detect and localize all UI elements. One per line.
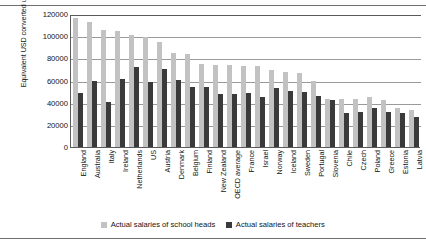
bar-teachers [232,94,237,147]
bar-teachers [120,79,125,147]
bar-group [183,14,197,147]
bar-group [393,14,407,147]
bar-teachers [288,91,293,147]
bar-group [253,14,267,147]
bar-teachers [302,92,307,147]
bar-teachers [246,93,251,147]
bars-group [71,14,421,147]
bar-group [85,14,99,147]
x-axis-tick-label: Latvia [416,150,423,169]
x-axis-label-cell: Belgium [182,150,196,212]
x-axis-label-cell: Estonia [392,150,406,212]
bar-group [295,14,309,147]
bar-teachers [92,81,97,148]
bar-teachers [148,82,153,147]
bar-teachers [386,112,391,147]
legend-item[interactable]: Actual salaries of school heads [101,220,215,229]
bar-teachers [372,108,377,147]
bar-group [351,14,365,147]
x-axis-label-cell: Greece [378,150,392,212]
legend-item[interactable]: Actual salaries of teachers [226,220,325,229]
legend-swatch-icon [101,222,107,228]
x-axis-label-cell: Latvia [406,150,420,212]
bar-teachers [134,67,139,147]
bar-group [379,14,393,147]
x-axis-label-cell: Sweden [294,150,308,212]
bar-group [197,14,211,147]
x-axis-label-cell: OECD average [224,150,238,212]
x-axis-label-cell: Portugal [308,150,322,212]
bar-teachers [190,87,195,147]
bar-teachers [358,112,363,147]
x-axis-label-cell: Chile [336,150,350,212]
y-axis-tick-label: 60000 [47,78,68,86]
bar-group [211,14,225,147]
y-axis-tick-label: 120000 [43,11,68,19]
x-axis-label-cell: Israel [252,150,266,212]
y-axis-tick-label: 20000 [47,122,68,130]
bar-teachers [260,97,265,147]
x-axis-label-cell: Iceland [280,150,294,212]
plot-area-wrapper: 120000100000800006000040000200000 [70,15,420,148]
bar-group [309,14,323,147]
bar-teachers [414,117,419,147]
bar-group [141,14,155,147]
chart-figure: Equivalent USD converted using PPPs 1200… [0,0,426,246]
x-axis-label-cell: Poland [364,150,378,212]
plot-area: 120000100000800006000040000200000 [70,15,420,148]
x-axis-label-cell: Netherlands [126,150,140,212]
y-axis-title: Equivalent USD converted using PPPs [19,0,28,102]
bar-group [337,14,351,147]
bar-teachers [316,96,321,147]
bar-teachers [400,113,405,147]
bar-teachers [162,69,167,147]
x-axis-label-cell: Italy [98,150,112,212]
x-axis-labels: EnglandAustraliaItalyIrelandNetherlandsU… [70,150,420,212]
legend-label: Actual salaries of teachers [236,220,325,229]
bar-group [71,14,85,147]
bar-group [267,14,281,147]
bar-teachers [176,80,181,147]
bar-teachers [218,94,223,147]
bar-group [99,14,113,147]
x-axis-label-cell: Finland [196,150,210,212]
bar-group [323,14,337,147]
x-axis-label-cell: New Zealand [210,150,224,212]
y-axis-tick-label: 0 [64,144,68,152]
x-axis-label-cell: Slovenia [322,150,336,212]
x-axis-label-cell: England [70,150,84,212]
bar-teachers [274,88,279,147]
bar-group [365,14,379,147]
bar-group [239,14,253,147]
bar-group [225,14,239,147]
bar-group [281,14,295,147]
x-axis-label-cell: Denmark [168,150,182,212]
x-axis-label-cell: Australia [84,150,98,212]
bar-group [407,14,421,147]
x-axis-label-cell: France [238,150,252,212]
y-axis-tick-label: 40000 [47,100,68,108]
x-axis-label-cell: Norway [266,150,280,212]
y-axis-tick-label: 100000 [43,33,68,41]
bar-group [127,14,141,147]
legend-swatch-icon [226,222,232,228]
chart-legend: Actual salaries of school headsActual sa… [0,220,426,229]
legend-label: Actual salaries of school heads [111,220,216,229]
x-axis-label-cell: Ireland [112,150,126,212]
bar-group [155,14,169,147]
top-divider-rule [0,5,426,6]
bar-teachers [204,87,209,147]
bar-teachers [78,93,83,147]
x-axis-label-cell: US [140,150,154,212]
x-axis-label-cell: Czech [350,150,364,212]
y-axis-tick-label: 80000 [47,56,68,64]
bar-teachers [106,102,111,147]
bottom-divider-rule [0,238,426,239]
bar-teachers [330,100,335,147]
bar-group [113,14,127,147]
bar-teachers [344,113,349,147]
bar-group [169,14,183,147]
x-axis-label-cell: Austria [154,150,168,212]
